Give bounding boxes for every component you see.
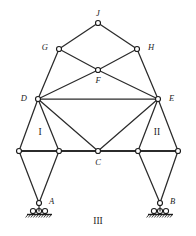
joint-a <box>37 201 42 206</box>
joint-l1 <box>17 149 22 154</box>
joint-l2 <box>57 149 62 154</box>
support-b-ground-hatch <box>147 215 149 218</box>
joint-r2 <box>176 149 181 154</box>
support-a-ground-hatch <box>26 215 28 218</box>
joint-g <box>57 47 62 52</box>
joint-j <box>96 21 101 26</box>
joint-h <box>135 47 140 52</box>
support-b-roller-3 <box>163 208 168 213</box>
member-R1-B <box>138 151 160 203</box>
joint-d <box>36 97 41 102</box>
joint-r1 <box>136 149 141 154</box>
joint-label-j: J <box>96 8 101 18</box>
joint-label-b: B <box>170 196 175 206</box>
joint-f <box>96 68 101 73</box>
member-H-F <box>98 49 137 70</box>
member-F-E <box>98 70 158 99</box>
member-E-R2 <box>158 99 178 151</box>
member-L1-A <box>19 151 39 203</box>
joint-label-g: G <box>42 42 48 52</box>
joint-label-h: H <box>147 42 155 52</box>
member-D-L1 <box>19 99 38 151</box>
member-G-D <box>38 49 59 99</box>
joint-c <box>96 149 101 154</box>
member-G-F <box>59 49 98 70</box>
joint-e <box>156 97 161 102</box>
truss-diagram-canvas: JGHFDECABIIIIII <box>0 0 196 236</box>
support-a-roller-1 <box>30 208 35 213</box>
joint-label-e: E <box>168 93 175 103</box>
support-b-roller-1 <box>151 208 156 213</box>
joint-label-f: F <box>94 75 101 85</box>
joint-b <box>158 201 163 206</box>
region-III-label: III <box>93 216 103 226</box>
joint-label-d: D <box>20 93 28 103</box>
member-E-R1 <box>138 99 158 151</box>
member-J-G <box>59 23 98 49</box>
member-H-E <box>137 49 158 99</box>
support-a-roller-3 <box>42 208 47 213</box>
member-E-C <box>98 99 158 151</box>
region-II-label: II <box>154 127 160 137</box>
joint-label-c: C <box>95 157 101 167</box>
truss-figure: JGHFDECABIIIIII <box>0 0 196 236</box>
member-J-H <box>98 23 137 49</box>
member-D-C <box>38 99 98 151</box>
region-I-label: I <box>38 127 41 137</box>
member-R2-B <box>160 151 178 203</box>
member-D-L2 <box>38 99 59 151</box>
member-F-D <box>38 70 98 99</box>
joint-label-a: A <box>48 196 55 206</box>
